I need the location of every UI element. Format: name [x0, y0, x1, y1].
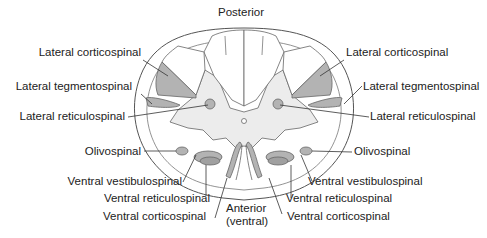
label-ventral-vestibulospinal-right: Ventral vestibulospinal: [308, 175, 422, 188]
label-lateral-reticulospinal-left: Lateral reticulospinal: [20, 110, 125, 123]
label-lateral-tegmentospinal-right: Lateral tegmentospinal: [363, 80, 479, 93]
tract-lateral-reticulospinal-left: [205, 99, 215, 109]
label-olivospinal-right: Olivospinal: [354, 145, 410, 158]
tract-ventral-reticulospinal-left: [200, 157, 220, 165]
label-lateral-reticulospinal-right: Lateral reticulospinal: [370, 110, 475, 123]
label-ventral-vestibulospinal-left: Ventral vestibulospinal: [68, 175, 182, 188]
tract-ventral-reticulospinal-right: [268, 157, 288, 165]
orientation-anterior: Anterior (ventral): [226, 202, 266, 228]
label-ventral-reticulospinal-left: Ventral reticulospinal: [104, 192, 210, 205]
label-ventral-corticospinal-right: Ventral corticospinal: [287, 210, 390, 223]
label-lateral-tegmentospinal-left: Lateral tegmentospinal: [16, 80, 132, 93]
label-lateral-corticospinal-left: Lateral corticospinal: [39, 46, 141, 59]
tract-olivospinal-left: [176, 147, 188, 155]
label-ventral-corticospinal-left: Ventral corticospinal: [103, 210, 206, 223]
label-olivospinal-left: Olivospinal: [85, 145, 141, 158]
central-canal: [242, 119, 247, 124]
label-lateral-corticospinal-right: Lateral corticospinal: [346, 46, 448, 59]
tract-lateral-reticulospinal-right: [273, 99, 283, 109]
orientation-posterior: Posterior: [218, 6, 264, 19]
tract-olivospinal-right: [300, 147, 312, 155]
label-ventral-reticulospinal-right: Ventral reticulospinal: [286, 192, 392, 205]
